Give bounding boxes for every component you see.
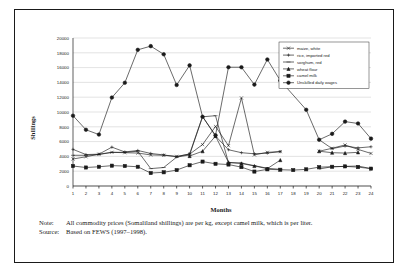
- y-tick-label: 12000: [57, 95, 70, 100]
- y-tick-label: 20000: [57, 36, 70, 41]
- line-chart: 0200040006000800010000120001400016000180…: [15, 16, 395, 216]
- x-tick-label: 20: [317, 191, 322, 196]
- legend-label: rice, imported red: [297, 53, 330, 58]
- data-point-marker: [287, 81, 291, 85]
- x-tick-label: 23: [356, 191, 361, 196]
- y-tick-label: 14000: [57, 80, 70, 85]
- x-tick-label: 13: [226, 191, 231, 196]
- x-tick-label: 3: [98, 191, 101, 196]
- source-label: Source:: [39, 227, 66, 236]
- x-tick-label: 16: [265, 191, 270, 196]
- x-tick-label: 6: [137, 191, 140, 196]
- y-tick-label: 4000: [59, 154, 69, 159]
- y-tick-label: 2000: [59, 169, 69, 174]
- y-tick-label: 10000: [57, 110, 70, 115]
- x-tick-label: 17: [278, 191, 283, 196]
- y-tick-label: 16000: [57, 65, 70, 70]
- x-tick-label: 8: [162, 191, 165, 196]
- legend-label: Unskilled daily wages: [297, 80, 337, 85]
- x-axis-title: Months: [211, 206, 232, 213]
- x-tick-label: 2: [85, 191, 88, 196]
- y-tick-label: 0: [67, 184, 70, 189]
- x-tick-label: 24: [369, 191, 374, 196]
- y-axis-tick-labels: 0200040006000800010000120001400016000180…: [57, 36, 70, 189]
- legend-label: wheat flour: [297, 67, 318, 72]
- x-axis-tick-labels: 123456789101112131415161718192021222324: [72, 191, 374, 196]
- source-text: Based on FEWS (1997–1998).: [66, 227, 387, 236]
- figure-panel: 0200040006000800010000120001400016000180…: [14, 9, 394, 263]
- caption-source-row: Source: Based on FEWS (1997–1998).: [39, 227, 387, 236]
- y-tick-label: 18000: [57, 51, 70, 56]
- x-tick-label: 9: [175, 191, 178, 196]
- y-axis-title: Shillings: [29, 116, 36, 140]
- data-point-marker: [287, 74, 290, 77]
- caption-note-row: Note: All commodity prices (Somaliland s…: [39, 218, 387, 227]
- x-tick-label: 1: [72, 191, 75, 196]
- y-tick-label: 6000: [59, 139, 69, 144]
- x-tick-label: 7: [150, 191, 153, 196]
- legend-label: camel milk: [297, 73, 318, 78]
- x-tick-label: 14: [239, 191, 244, 196]
- legend-label: maize, white: [297, 46, 321, 51]
- y-tick-label: 8000: [59, 125, 69, 130]
- note-text: All commodity prices (Somaliland shillin…: [66, 218, 387, 227]
- figure-caption: Note: All commodity prices (Somaliland s…: [39, 218, 387, 236]
- series-0: [71, 96, 372, 160]
- x-tick-label: 22: [343, 191, 348, 196]
- x-tick-label: 18: [291, 191, 296, 196]
- x-tick-label: 5: [124, 191, 127, 196]
- chart-plot-area: 0200040006000800010000120001400016000180…: [15, 16, 395, 216]
- chart-legend: maize, whiterice, imported redsorghum, r…: [279, 42, 369, 88]
- x-tick-label: 15: [252, 191, 257, 196]
- x-tick-label: 4: [111, 191, 114, 196]
- x-tick-label: 12: [213, 191, 218, 196]
- x-tick-label: 11: [200, 191, 205, 196]
- x-tick-label: 10: [187, 191, 192, 196]
- x-tick-label: 21: [330, 191, 335, 196]
- x-tick-label: 19: [304, 191, 309, 196]
- legend-label: sorghum, red: [297, 60, 322, 65]
- note-label: Note:: [39, 218, 66, 227]
